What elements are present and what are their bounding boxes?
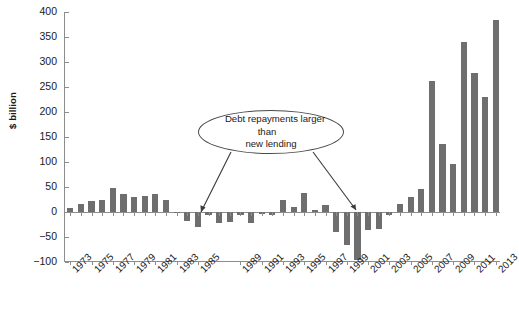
x-tick-label: 1983 [177, 251, 201, 275]
year-tick-mark [113, 212, 114, 216]
year-tick-mark [230, 212, 231, 216]
year-tick-mark [70, 212, 71, 216]
y-axis-title: $ billion [7, 76, 18, 146]
bar [301, 193, 307, 212]
bar [163, 200, 169, 213]
year-tick-mark [92, 212, 93, 216]
annotation-line-2: new lending [237, 138, 304, 149]
year-tick-mark [209, 212, 210, 216]
y-tick-mark [65, 162, 69, 163]
year-tick-mark [123, 212, 124, 216]
bar [482, 97, 488, 212]
x-tick-label: 1997 [326, 251, 350, 275]
bar [110, 188, 116, 212]
year-tick-mark [443, 212, 444, 216]
x-tick-label: 1991 [262, 251, 286, 275]
bar [78, 204, 84, 213]
year-tick-mark [219, 212, 220, 216]
x-tick-label: 1993 [283, 251, 307, 275]
y-tick-label: 0 [51, 205, 57, 217]
x-tick-mark [177, 261, 178, 265]
year-tick-mark [177, 212, 178, 216]
y-tick-label: −100 [33, 255, 57, 267]
year-tick-mark [198, 212, 199, 216]
year-tick-mark [336, 212, 337, 216]
year-tick-mark [464, 212, 465, 216]
y-tick-mark [65, 12, 69, 13]
bar [418, 189, 424, 213]
x-tick-mark [262, 261, 263, 265]
annotation-text: Debt repayments larger than new lending [199, 113, 343, 152]
year-tick-mark [389, 212, 390, 216]
y-tick-mark [65, 212, 69, 213]
year-tick-mark [453, 212, 454, 216]
year-tick-mark [145, 212, 146, 216]
y-tick-label: 200 [39, 105, 57, 117]
x-tick-label: 2007 [432, 251, 456, 275]
bar [152, 194, 158, 213]
year-tick-mark [272, 212, 273, 216]
year-tick-mark [251, 212, 252, 216]
y-tick-mark [65, 262, 69, 263]
x-tick-label: 1995 [304, 251, 328, 275]
x-tick-mark [411, 261, 412, 265]
bar [280, 200, 286, 213]
bar [429, 81, 435, 213]
bar [322, 205, 328, 212]
bar [493, 20, 499, 212]
bar [450, 164, 456, 212]
year-tick-mark [421, 212, 422, 216]
x-tick-label: 1977 [113, 251, 137, 275]
year-tick-mark [400, 212, 401, 216]
bar [344, 212, 350, 245]
y-tick-label: 100 [39, 155, 57, 167]
year-tick-mark [187, 212, 188, 216]
y-tick-label: 300 [39, 55, 57, 67]
year-tick-mark [347, 212, 348, 216]
x-tick-mark [92, 261, 93, 265]
year-tick-mark [432, 212, 433, 216]
year-tick-mark [496, 212, 497, 216]
y-tick-mark [65, 37, 69, 38]
bar [471, 73, 477, 213]
bar [142, 196, 148, 213]
y-tick-mark [65, 237, 69, 238]
year-tick-mark [357, 212, 358, 216]
year-tick-mark [166, 212, 167, 216]
year-tick-mark [485, 212, 486, 216]
y-tick-mark [65, 87, 69, 88]
bar [88, 201, 94, 212]
bar [99, 200, 105, 213]
year-tick-mark [155, 212, 156, 216]
y-tick-label: 350 [39, 30, 57, 42]
y-tick-mark [65, 62, 69, 63]
bar [131, 197, 137, 213]
x-tick-label: 2003 [389, 251, 413, 275]
x-tick-mark [326, 261, 327, 265]
x-tick-label: 1975 [92, 251, 116, 275]
y-tick-mark [65, 187, 69, 188]
bar [408, 197, 414, 212]
x-tick-label: 1985 [198, 251, 222, 275]
year-tick-mark [379, 212, 380, 216]
bar [439, 144, 445, 213]
year-tick-mark [326, 212, 327, 216]
y-tick-label: −50 [39, 230, 57, 242]
x-tick-label: 2001 [368, 251, 392, 275]
x-tick-label: 2013 [496, 251, 519, 275]
y-tick-mark [65, 137, 69, 138]
year-tick-mark [294, 212, 295, 216]
year-tick-mark [411, 212, 412, 216]
year-tick-mark [368, 212, 369, 216]
bar [461, 42, 467, 213]
y-tick-label: 150 [39, 130, 57, 142]
year-tick-mark [240, 212, 241, 216]
bar [397, 204, 403, 212]
year-tick-mark [315, 212, 316, 216]
year-tick-mark [102, 212, 103, 216]
bar [354, 212, 360, 260]
x-tick-label: 1981 [155, 251, 179, 275]
x-tick-label: 1989 [240, 251, 264, 275]
year-tick-mark [81, 212, 82, 216]
y-tick-label: 50 [45, 180, 57, 192]
